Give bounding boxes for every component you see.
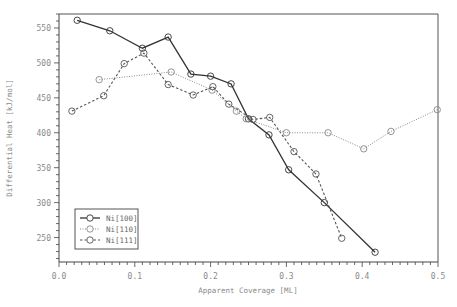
legend-label: Ni[100] [106,214,138,223]
data-point-marker [190,92,196,98]
data-point-marker [228,81,234,87]
data-point-marker [226,101,232,107]
legend-marker [87,215,93,221]
y-tick-label: 500 [37,59,52,68]
legend-marker [87,226,93,232]
chart: 250300350400450500550 0.00.10.20.30.40.5… [0,0,457,307]
data-point-marker [121,60,127,66]
data-point-marker [210,83,216,89]
x-tick-label: 0.5 [431,272,446,281]
data-point-marker [96,76,102,82]
data-point-marker [165,34,171,40]
y-tick-label: 400 [37,129,52,138]
data-point-marker [388,128,394,134]
data-point-marker [372,249,378,255]
series-ni-110- [96,69,440,152]
y-tick-label: 300 [37,199,52,208]
x-axis: 0.00.10.20.30.40.5 [52,262,446,281]
data-point-marker [283,130,289,136]
data-point-marker [250,116,256,122]
x-tick-label: 0.1 [128,272,143,281]
legend-label: Ni[110] [106,225,138,234]
legend: Ni[100]Ni[110]Ni[111] [75,209,138,249]
data-point-marker [434,107,440,113]
x-tick-label: 0.2 [203,272,218,281]
data-point-marker [285,167,291,173]
data-point-marker [207,73,213,79]
x-tick-label: 0.0 [52,272,67,281]
data-point-marker [321,199,327,205]
data-point-marker [267,114,273,120]
data-point-marker [141,50,147,56]
y-axis-label: Differential Heat [kJ/mol] [5,79,14,196]
data-point-marker [168,69,174,75]
y-axis: 250300350400450500550 [37,14,59,259]
x-tick-label: 0.4 [355,272,370,281]
data-point-marker [266,132,272,138]
data-point-marker [339,235,345,241]
x-tick-label: 0.3 [279,272,294,281]
legend-marker [87,237,93,243]
data-point-marker [165,81,171,87]
y-tick-label: 450 [37,94,52,103]
y-tick-label: 250 [37,234,52,243]
data-point-marker [325,130,331,136]
y-tick-label: 550 [37,24,52,33]
y-tick-label: 350 [37,164,52,173]
data-point-marker [361,146,367,152]
data-point-marker [188,71,194,77]
data-point-marker [74,17,80,23]
data-point-marker [101,93,107,99]
legend-label: Ni[111] [106,236,138,245]
data-point-marker [69,108,75,114]
data-point-marker [107,28,113,34]
data-point-marker [313,171,319,177]
x-axis-label: Apparent Coverage [ML] [198,286,297,295]
data-point-marker [291,148,297,154]
